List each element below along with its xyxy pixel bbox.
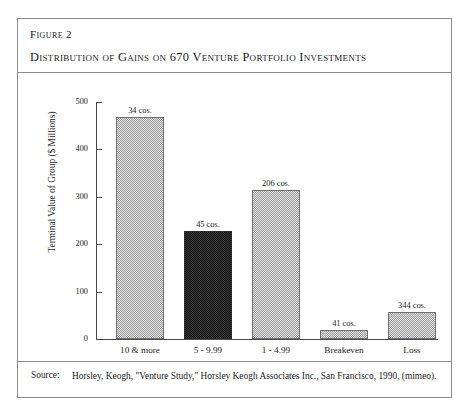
figure-title-block: Figure 2 Distribution of Gains on 670 Ve…	[18, 19, 451, 73]
bar-group: 344 cos.	[388, 97, 436, 339]
y-axis-tick-label: 300	[48, 192, 88, 201]
bar-value-label: 41 cos.	[320, 319, 368, 328]
y-axis-tick-label: 100	[48, 287, 88, 296]
bar-group: 34 cos.	[116, 97, 164, 339]
bar-value-label: 34 cos.	[116, 106, 164, 115]
x-axis-line	[96, 339, 438, 340]
source-label: Source:	[31, 370, 60, 380]
y-axis-tick-label: 400	[48, 144, 88, 153]
bar[interactable]	[388, 312, 436, 339]
bar-value-label: 45 cos.	[184, 220, 232, 229]
y-axis-tick-label: 0	[48, 334, 88, 343]
x-axis-category-label: 10 & more	[106, 345, 174, 355]
bar[interactable]	[116, 117, 164, 339]
bar-group: 45 cos.	[184, 97, 232, 339]
y-axis-tick-label: 200	[48, 239, 88, 248]
figure-title: Distribution of Gains on 670 Venture Por…	[30, 50, 366, 65]
bar-value-label: 206 cos.	[252, 179, 300, 188]
y-axis-tick	[96, 149, 102, 150]
source-text: Horsley, Keogh, "Venture Study," Horsley…	[72, 370, 441, 383]
y-axis-tick-label: 500	[48, 97, 88, 106]
figure-number: Figure 2	[30, 28, 72, 40]
y-axis-title: Terminal Value of Group ($ Millions)	[47, 82, 57, 282]
y-axis-tick	[96, 339, 102, 340]
y-axis-tick	[96, 197, 102, 198]
bar[interactable]	[320, 330, 368, 339]
figure-panel: Figure 2 Distribution of Gains on 670 Ve…	[17, 18, 452, 398]
bar-group: 206 cos.	[252, 97, 300, 339]
bar[interactable]	[252, 190, 300, 339]
x-axis-category-label: 1 - 4.99	[242, 345, 310, 355]
chart-plot-area: Terminal Value of Group ($ Millions) 010…	[18, 73, 451, 363]
x-axis-category-label: 5 - 9.99	[174, 345, 242, 355]
y-axis-tick	[96, 102, 102, 103]
source-block: Source: Horsley, Keogh, "Venture Study,"…	[18, 361, 451, 397]
bar-value-label: 344 cos.	[388, 301, 436, 310]
bar[interactable]	[184, 231, 232, 339]
bar-group: 41 cos.	[320, 97, 368, 339]
x-axis-category-label: Loss	[378, 345, 446, 355]
y-axis-line	[96, 102, 97, 339]
y-axis-tick	[96, 244, 102, 245]
y-axis-tick	[96, 292, 102, 293]
x-axis-category-label: Breakeven	[310, 345, 378, 355]
